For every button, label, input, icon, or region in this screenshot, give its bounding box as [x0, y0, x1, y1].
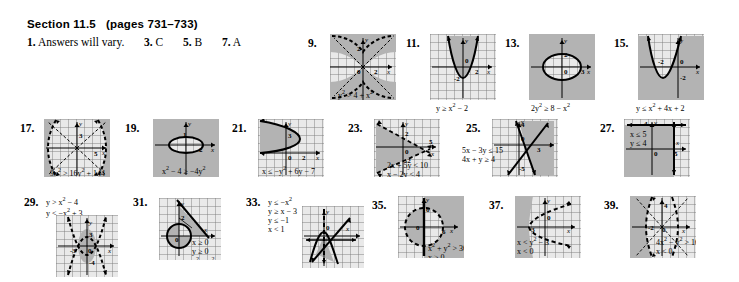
axis-label-x: x [587, 68, 590, 76]
problem-number: 37. [489, 199, 503, 211]
axis-label-y: y [547, 197, 550, 205]
axis-label-y: y [426, 196, 429, 204]
tick-label: 6 [426, 206, 430, 214]
graph-27: 4 0 5 y x x ≤ 5y ≤ 4 [624, 119, 690, 177]
graph-13: 2 0 3 y x [529, 34, 595, 100]
graph-39: 4 -2 0 x 4x2 − y2 > 16x < 0 [630, 196, 696, 258]
tick-label: 6 [442, 228, 446, 236]
axis-label-y: y [188, 120, 191, 128]
tick-label: 0 [547, 214, 551, 222]
tick-label: -2 [454, 75, 460, 83]
axis-label-y: y [89, 219, 92, 227]
tick-label: -3 [70, 247, 76, 255]
axis-label-y: y [405, 120, 408, 128]
problem-number: 15. [614, 37, 628, 49]
answer-key-page: Section 11.5(pages 731–733) 1. Answers w… [0, 0, 739, 282]
axis-label-y: y [465, 37, 468, 45]
answer-text-3: C [156, 36, 164, 48]
axis-label-y: y [181, 200, 184, 208]
axis-label-x: x [204, 226, 207, 234]
axis-label-x: x [102, 149, 105, 157]
graph-13-plot [529, 34, 595, 100]
graph-19: 1 2 y x x2 − 4 ≥ −4y2 [153, 119, 219, 177]
problem-number: 29. [24, 196, 38, 208]
tick-label: -2 [658, 58, 664, 66]
equation-17: 9x2 > 16y2 + 144 [50, 167, 105, 177]
problem-number: 27. [600, 122, 614, 134]
axis-label-x: x [676, 139, 679, 147]
axis-label-x: x [682, 227, 685, 235]
section-label: Section 11.5 [27, 18, 96, 30]
axis-label-x: x [487, 68, 490, 76]
graph-17: 3 5 y x 9x2 > 16y2 + 144 [44, 119, 110, 177]
equations-39: 4x2 − y2 > 16x < 0 [656, 236, 696, 256]
axis-label-x: x [108, 247, 111, 255]
problem-number: 11. [406, 37, 420, 49]
axis-label-y: y [521, 119, 524, 126]
tick-label: 0 [405, 148, 409, 156]
equations-33: y ≤ −x2y ≥ x − 3y ≤ −1x < 1 [268, 196, 297, 234]
tick-label: -2 [648, 224, 654, 232]
axis-label-x: x [387, 68, 390, 76]
axis-label-y: y [326, 208, 329, 216]
axis-label-y: y [365, 36, 368, 44]
graph-15-plot [638, 34, 704, 100]
axis-label-x: x [316, 154, 319, 162]
tick-label: 0 [465, 57, 469, 65]
problem-number: 39. [604, 199, 618, 211]
axis-label-x: x [450, 227, 453, 235]
axis-label-y: y [564, 37, 567, 45]
graph-37: -3 0 y x x < y2 − 3x < 0 [515, 196, 581, 258]
equation-9: y2 > 4 + x2 [338, 89, 373, 100]
equations-37: x < y2 − 3x < 0 [517, 236, 549, 256]
tick-label: 2 [564, 51, 568, 59]
graph-33-plot [302, 206, 364, 268]
answer-text-1: Answers will vary. [38, 36, 124, 48]
axis-label-x: x [696, 68, 699, 76]
tick-label: 5 [429, 138, 433, 146]
graph-23: 2 0 5 -2 y x 2x + 5y < 10x − 2y < 4 [374, 119, 440, 177]
graph-29-plot [56, 215, 118, 277]
problem-number: 21. [232, 122, 246, 134]
graph-35: 6 0 6 y x x2 + y2 > 36x ≥ 0 [398, 196, 464, 258]
tick-label: 0 [564, 68, 568, 76]
tick-label: 0 [175, 236, 179, 244]
tick-label: 5 [94, 150, 98, 158]
problem-number: 13. [505, 37, 519, 49]
pages-range: (pages 731–733) [106, 18, 198, 30]
equations-27: x ≤ 5y ≤ 4 [630, 130, 646, 148]
tick-label: -3 [529, 226, 535, 234]
problem-number: 33. [246, 196, 260, 208]
tick-label: 2 [357, 45, 361, 53]
problem-number: 31. [133, 196, 147, 208]
answer-number-7: 7. [222, 36, 231, 48]
graph-15: -2 0 -2 y x [638, 34, 704, 100]
axis-label-x: x [431, 150, 434, 158]
axis-label-y: y [79, 120, 82, 128]
answer-text-5: B [195, 36, 203, 48]
tick-label: 4 [664, 202, 668, 210]
tick-label: 2 [199, 146, 203, 154]
answer-text-7: A [233, 36, 241, 48]
equations-23: 2x + 5y < 10x − 2y < 4 [387, 161, 428, 177]
graph-33: 0 y x [302, 206, 364, 268]
tick-label: 3 [537, 146, 541, 154]
short-answer-line: 1. Answers will vary. 3. C 5. B 7. A [27, 36, 241, 48]
axis-label-y: y [680, 37, 683, 45]
problem-number: 35. [372, 199, 386, 211]
tick-label: 0 [326, 224, 330, 232]
equation-11: y ≥ x2 − 2 [436, 102, 468, 113]
axis-label-x: x [567, 227, 570, 235]
axis-label-y: y [288, 120, 291, 128]
tick-label: -2 [680, 74, 686, 82]
answer-number-3: 3. [144, 36, 153, 48]
tick-label: 0 [662, 226, 666, 234]
answer-number-1: 1. [27, 36, 36, 48]
tick-label: 2 [475, 68, 479, 76]
tick-label: 0 [654, 150, 658, 158]
problem-number: 9. [308, 37, 317, 49]
problem-number: 19. [125, 122, 139, 134]
equation-21: x ≤ −y2 + 6y − 7 [262, 165, 315, 176]
tick-label: 0 [416, 224, 420, 232]
graph-11: 0 2 -2 y x [430, 34, 496, 100]
